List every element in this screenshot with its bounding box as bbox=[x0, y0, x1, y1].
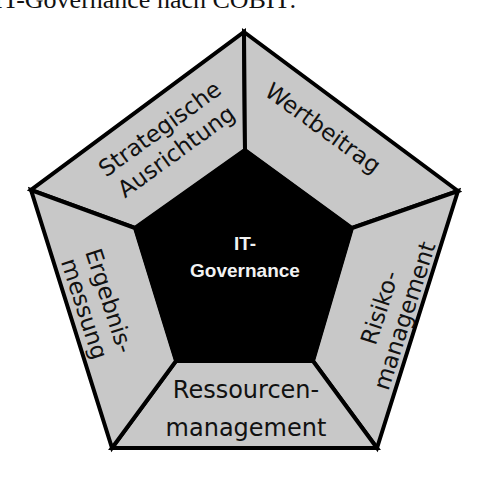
segment-label-line2: management bbox=[166, 414, 327, 442]
center-label-line2: Governance bbox=[190, 260, 300, 281]
cobit-pentagon-diagram: IT- Governance Strategische Ausrichtung … bbox=[0, 0, 485, 479]
segment-label-line1: Ressourcen- bbox=[173, 376, 319, 404]
center-label-line1: IT- bbox=[234, 233, 256, 254]
